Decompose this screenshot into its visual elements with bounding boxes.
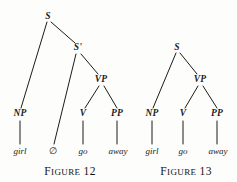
edge-vp-pp-fig12 xyxy=(104,86,117,108)
edge-sbar-vp-fig12 xyxy=(81,54,98,74)
node-pp-fig13: PP xyxy=(211,109,223,119)
node-vp-fig13: VP xyxy=(194,75,207,85)
node-pp-fig12: PP xyxy=(111,109,123,119)
node-s-fig13: S xyxy=(174,43,179,53)
leaf-go-fig12: go xyxy=(79,147,88,156)
caption-figure-13-word: FIGURE xyxy=(160,166,196,177)
leaf-away-fig13: away xyxy=(209,147,228,156)
node-v-fig13: V xyxy=(180,109,187,119)
leaf-girl-fig12: girl xyxy=(13,147,26,156)
edge-vp-v-fig12 xyxy=(85,86,99,108)
caption-figure-12-word: FIGURE xyxy=(44,166,80,177)
edge-vp-v-fig13 xyxy=(185,86,198,108)
node-np-fig13: NP xyxy=(145,109,158,119)
figure-pair-canvas: S S' VP NP V PP girl ∅ go away FIGURE12 … xyxy=(0,0,237,182)
node-s-fig12: S xyxy=(45,12,50,22)
caption-12-rest: IGURE xyxy=(51,167,81,177)
caption-figure-12: FIGURE12 xyxy=(44,166,96,178)
caption-13-initial: F xyxy=(160,165,167,177)
caption-12-initial: F xyxy=(44,165,51,177)
edge-s-sbar-fig12 xyxy=(51,22,75,43)
edge-sbar-null-fig12 xyxy=(54,54,76,144)
leaf-go-fig13: go xyxy=(179,147,188,156)
leaf-null-empty-fig12: ∅ xyxy=(49,146,57,156)
node-sbar-fig12: S' xyxy=(74,43,82,53)
node-np-fig12: NP xyxy=(13,109,26,119)
caption-13-rest: IGURE xyxy=(167,167,197,177)
edge-vp-pp-fig13 xyxy=(203,86,217,108)
caption-figure-13: FIGURE13 xyxy=(160,166,212,178)
leaf-away-fig12: away xyxy=(109,147,128,156)
node-vp-fig12: VP xyxy=(95,75,108,85)
edge-s-np-fig12 xyxy=(21,22,47,108)
caption-figure-13-number: 13 xyxy=(199,165,211,177)
node-v-fig12: V xyxy=(80,109,87,119)
edge-s-np-fig13 xyxy=(153,53,176,108)
caption-figure-12-number: 12 xyxy=(83,165,95,177)
leaf-girl-fig13: girl xyxy=(145,147,158,156)
edge-s-vp-fig13 xyxy=(180,53,197,74)
